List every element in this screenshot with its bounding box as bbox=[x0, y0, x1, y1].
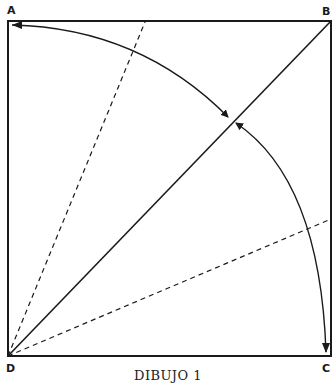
vertex-label-b: B bbox=[322, 5, 330, 18]
figure-caption: DIBUJO 1 bbox=[0, 368, 336, 383]
diagram-canvas bbox=[0, 0, 336, 389]
diagonal-db bbox=[8, 21, 331, 356]
arc-arrow-a-to-diagonal bbox=[12, 25, 228, 117]
vertex-label-a: A bbox=[7, 4, 16, 17]
dashed-line-upper bbox=[8, 22, 145, 356]
arc-arrow-c-to-diagonal bbox=[236, 123, 326, 352]
dashed-line-lower bbox=[8, 219, 331, 356]
